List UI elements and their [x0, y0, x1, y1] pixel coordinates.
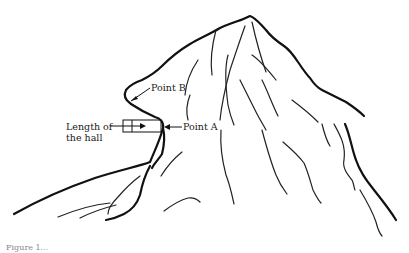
- ridge-line: [220, 26, 245, 120]
- ridge-line: [187, 95, 190, 120]
- mountain-outline-right: [345, 124, 396, 220]
- arrowhead-icon: [164, 124, 170, 130]
- ridge-line: [161, 152, 182, 176]
- ridge-line: [226, 55, 234, 125]
- ridge-line: [322, 124, 330, 146]
- ridge-line: [80, 205, 116, 218]
- length-of-hall-line2: the hall: [66, 132, 112, 143]
- ridge-line: [262, 80, 278, 116]
- ridge-line: [164, 198, 200, 211]
- figure-caption: Figure 1...: [6, 242, 48, 253]
- length-of-hall-line1: Length of: [66, 121, 112, 132]
- ridge-line: [240, 80, 266, 130]
- ridge-line: [185, 60, 198, 95]
- lower-left-ridge: [106, 166, 150, 220]
- ridge-line: [283, 142, 321, 203]
- ridge-line: [252, 22, 266, 72]
- length-of-hall-label: Length of the hall: [66, 121, 112, 143]
- ridge-line: [211, 30, 216, 75]
- ridge-line: [262, 130, 287, 194]
- ridge-line: [221, 130, 234, 204]
- ridge-line: [292, 100, 318, 122]
- point-b-label: Point B: [151, 82, 186, 93]
- ridge-line: [58, 203, 110, 217]
- ridge-line: [334, 124, 355, 190]
- ridge-line: [108, 176, 140, 214]
- point-a-label: Point A: [183, 121, 218, 132]
- arrowhead-icon: [140, 123, 146, 129]
